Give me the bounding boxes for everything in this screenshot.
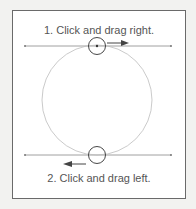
curve-circle xyxy=(42,45,152,155)
arrow-left-icon xyxy=(63,161,86,167)
drag-diagram xyxy=(0,0,196,209)
arrow-right-icon xyxy=(107,40,129,46)
